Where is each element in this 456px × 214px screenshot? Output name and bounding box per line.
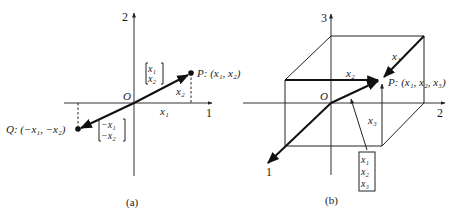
panel-b-axis-1-vector <box>268 103 331 163</box>
panel-a-caption: (a) <box>126 196 139 209</box>
vector-entry: −x₁ <box>101 119 116 130</box>
panel-b-column-vector-pointer <box>351 99 367 150</box>
panel-a-component-x2-label: x₂ <box>175 85 185 97</box>
panel-b-component-x3-label: x₃ <box>367 114 377 126</box>
panel-b-point-p-label: P: (x₁, x₂, x₃) <box>387 76 446 89</box>
vector-entry: x₂ <box>360 166 369 177</box>
panel-b: 2 3 1 O x₂ x₁ x₃ P: (x <box>243 11 446 207</box>
panel-b-component-x1-arrow <box>384 36 424 77</box>
panel-b-axis-1-label: 1 <box>266 165 272 179</box>
panel-b-component-x2-label: x₂ <box>345 67 355 79</box>
panel-b-axis-2-label: 2 <box>437 106 443 120</box>
panel-a-axis-2-label: 2 <box>122 10 128 24</box>
panel-a-origin-label: O <box>123 90 131 102</box>
panel-b-column-vector-p: x₁ x₂ x₃ <box>359 152 375 191</box>
panel-b-origin-label: O <box>320 90 328 102</box>
panel-a-component-x1-label: x₁ <box>159 105 169 117</box>
panel-a-point-p <box>188 70 194 76</box>
vector-figure: 1 2 O P: (x₁, x₂) Q: (−x₁, −x₂) x₁ x₂ x₁… <box>0 0 456 214</box>
panel-a-column-vector-q: −x₁ −x₂ <box>99 119 125 141</box>
panel-a-point-q-label: Q: (−x₁, −x₂) <box>6 123 66 136</box>
panel-a-column-vector-p: x₁ x₂ <box>146 63 163 84</box>
vector-entry: x₃ <box>360 178 369 189</box>
panel-b-component-x1-label: x₁ <box>391 50 401 62</box>
panel-b-axis-3-label: 3 <box>321 11 327 25</box>
panel-a-point-q <box>75 126 81 132</box>
panel-a: 1 2 O P: (x₁, x₂) Q: (−x₁, −x₂) x₁ x₂ x₁… <box>6 10 241 209</box>
vector-entry: x₂ <box>147 73 156 84</box>
vector-entry: x₁ <box>360 154 369 165</box>
vector-entry: −x₂ <box>101 130 116 141</box>
panel-a-axis-1-label: 1 <box>206 106 212 120</box>
panel-a-point-p-label: P: (x₁, x₂) <box>196 67 241 80</box>
panel-b-caption: (b) <box>325 194 338 207</box>
panel-b-vector-p-arrow <box>331 81 378 103</box>
